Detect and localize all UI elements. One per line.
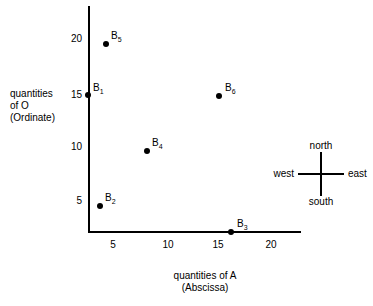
point-label-sub-b3: 3 [244,224,248,231]
data-point-b5 [103,41,109,47]
data-point-b1 [85,92,91,98]
compass-label-north: north [299,140,343,151]
point-label-text-b1: B [93,82,100,93]
y-axis-title-line-2: of O [10,100,55,112]
x-axis-line [88,231,301,233]
compass-rose: north south west east [276,140,371,208]
x-axis-title-line-1: quantities of A [140,270,270,282]
point-label-text-b2: B [105,192,112,203]
chart-canvas: 20 15 10 5 5 10 15 20 B1 B2 B3 B4 B5 B6 … [0,0,373,306]
point-label-sub-b6: 6 [232,88,236,95]
point-label-text-b5: B [111,30,118,41]
x-tick-label-15: 15 [206,239,230,250]
x-tick-label-5: 5 [101,239,125,250]
point-label-text-b6: B [225,82,232,93]
data-point-label-b4: B4 [152,138,163,150]
point-label-sub-b5: 5 [118,36,122,43]
y-axis-line [88,6,90,233]
y-tick-label-20: 20 [58,33,82,44]
y-tick-label-10: 10 [58,141,82,152]
compass-horizontal-bar [298,173,344,175]
data-point-label-b2: B2 [105,193,116,205]
point-label-sub-b1: 1 [100,88,104,95]
data-point-b4 [144,148,150,154]
y-axis-title-line-3: (Ordinate) [10,112,55,124]
y-tick-label-5: 5 [58,195,82,206]
data-point-b3 [228,229,234,235]
y-axis-title-line-1: quantities [10,88,55,100]
data-point-b6 [216,93,222,99]
compass-label-east: east [348,168,367,179]
compass-label-south: south [299,196,343,207]
data-point-label-b5: B5 [111,31,122,43]
data-point-label-b6: B6 [225,83,236,95]
x-axis-title: quantities of A (Abscissa) [140,270,270,294]
compass-label-west: west [254,168,294,179]
data-point-label-b1: B1 [93,83,104,95]
point-label-sub-b2: 2 [112,198,116,205]
point-label-text-b4: B [152,137,159,148]
y-tick-label-15: 15 [58,89,82,100]
x-axis-title-line-2: (Abscissa) [140,282,270,294]
point-label-sub-b4: 4 [159,143,163,150]
data-point-b2 [97,203,103,209]
x-tick-label-10: 10 [156,239,180,250]
x-tick-label-20: 20 [259,239,283,250]
point-label-text-b3: B [237,218,244,229]
y-axis-title: quantities of O (Ordinate) [10,88,55,124]
data-point-label-b3: B3 [237,219,248,231]
